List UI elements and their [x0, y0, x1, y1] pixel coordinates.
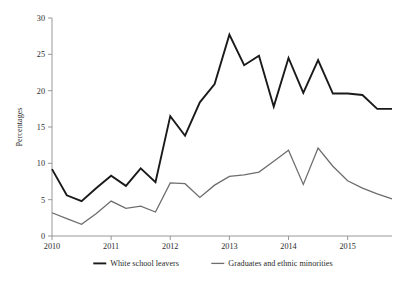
series-group	[52, 35, 392, 225]
x-axis-ticks: 201020112012201320142015	[44, 236, 356, 251]
series-line-white-school-leavers	[52, 35, 392, 201]
chart-legend: White school leaversGraduates and ethnic…	[93, 259, 332, 268]
series-line-graduates-ethnic-minorities	[52, 148, 392, 224]
chart-canvas: 051015202530 201020112012201320142015 Pe…	[0, 0, 403, 283]
y-tick-label: 5	[41, 196, 45, 205]
x-tick-label: 2013	[221, 242, 237, 251]
x-tick-label: 2014	[280, 242, 296, 251]
line-chart: 051015202530 201020112012201320142015 Pe…	[0, 0, 403, 283]
legend-label-0: White school leavers	[110, 259, 179, 268]
x-tick-label: 2011	[103, 242, 119, 251]
x-tick-label: 2012	[162, 242, 178, 251]
x-tick-label: 2010	[44, 242, 60, 251]
y-axis-title: Percentages	[15, 107, 24, 146]
x-tick-label: 2015	[339, 242, 355, 251]
y-tick-label: 10	[37, 159, 45, 168]
y-tick-label: 30	[37, 14, 45, 23]
y-tick-label: 15	[37, 123, 45, 132]
y-tick-label: 25	[37, 50, 45, 59]
legend-label-1: Graduates and ethnic minorities	[228, 259, 332, 268]
y-tick-label: 0	[41, 232, 45, 241]
y-tick-label: 20	[37, 87, 45, 96]
y-axis-ticks: 051015202530	[37, 14, 52, 241]
